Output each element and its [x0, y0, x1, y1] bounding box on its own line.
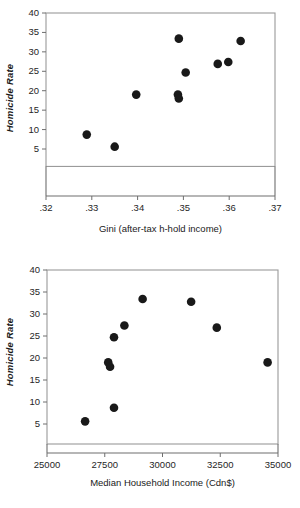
x-axis-title: Median Household Income (Cdn$) — [90, 477, 235, 488]
y-tick-label: 25 — [29, 330, 40, 341]
y-tick-label: 5 — [35, 418, 40, 429]
data-point — [81, 417, 90, 426]
x-axis-title: Gini (after-tax h-hold income) — [99, 223, 222, 234]
x-tick-label: .32 — [39, 202, 52, 213]
data-point — [132, 90, 141, 99]
y-tick-label: 25 — [28, 65, 39, 76]
data-point — [175, 34, 184, 43]
x-tick-label: .35 — [177, 202, 190, 213]
y-tick-label: 15 — [28, 104, 39, 115]
data-point — [175, 94, 184, 103]
x-tick-label: 25000 — [34, 459, 60, 470]
income-plot-area: 5101520253035402500027500300003250035000… — [0, 254, 300, 508]
data-point — [110, 142, 119, 151]
data-point — [212, 323, 221, 332]
y-tick-label: 20 — [29, 352, 40, 363]
y-tick-label: 10 — [28, 124, 39, 135]
y-tick-label: 35 — [28, 26, 39, 37]
plot-frame — [46, 13, 275, 166]
x-tick-label: .34 — [131, 202, 144, 213]
data-point — [224, 58, 233, 67]
x-tick-label: .33 — [85, 202, 98, 213]
y-tick-label: 20 — [28, 85, 39, 96]
data-point — [82, 130, 91, 139]
x-tick-label: 27500 — [92, 459, 118, 470]
scatter-chart-income: 5101520253035402500027500300003250035000… — [0, 254, 300, 508]
y-axis-title: Homicide Rate — [4, 317, 15, 386]
x-tick-label: 32500 — [207, 459, 233, 470]
data-point — [120, 321, 129, 330]
x-tick-label: .37 — [268, 202, 281, 213]
y-axis-title: Homicide Rate — [4, 63, 15, 132]
gini-plot-area: 510152025303540.32.33.34.35.36.37Gini (a… — [0, 0, 300, 254]
data-point — [187, 297, 196, 306]
y-tick-label: 5 — [34, 143, 39, 154]
data-point — [106, 363, 115, 372]
y-tick-label: 10 — [29, 396, 40, 407]
y-tick-label: 15 — [29, 374, 40, 385]
y-tick-label: 40 — [28, 7, 39, 18]
plot-frame — [47, 270, 278, 444]
data-point — [110, 403, 119, 412]
data-point — [181, 68, 190, 77]
x-tick-label: 30000 — [149, 459, 175, 470]
y-tick-label: 30 — [29, 308, 40, 319]
data-point — [110, 333, 119, 342]
x-tick-label: .36 — [223, 202, 236, 213]
scatter-chart-gini: 510152025303540.32.33.34.35.36.37Gini (a… — [0, 0, 300, 254]
x-tick-label: 35000 — [265, 459, 291, 470]
data-point — [236, 37, 245, 46]
y-tick-label: 40 — [29, 264, 40, 275]
data-point — [213, 60, 222, 69]
y-tick-label: 35 — [29, 286, 40, 297]
data-point — [263, 358, 272, 367]
y-tick-label: 30 — [28, 46, 39, 57]
data-point — [138, 295, 147, 304]
